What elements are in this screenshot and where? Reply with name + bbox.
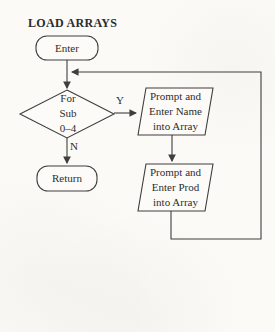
terminal-enter-label: Enter — [36, 36, 98, 60]
decision-no-label: N — [66, 139, 82, 153]
io-name-label: Prompt and Enter Name into Array — [138, 88, 213, 135]
terminal-return-label: Return — [37, 166, 97, 191]
decision-label: For Sub 0–4 — [20, 90, 116, 136]
flowchart-canvas: LOAD ARRAYS Enter For Sub 0–4 Y N Prompt… — [0, 0, 275, 332]
io-prod-label: Prompt and Enter Prod into Array — [138, 164, 213, 211]
decision-yes-label: Y — [112, 93, 128, 107]
